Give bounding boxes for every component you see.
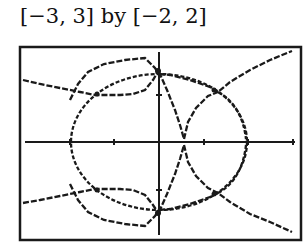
lower-cusp-return xyxy=(184,145,218,193)
upper-cusp-return xyxy=(184,92,218,139)
upper-cusp-curve xyxy=(159,72,184,139)
right-arc-lower xyxy=(218,145,246,193)
lower-cusp-curve xyxy=(159,145,184,212)
upper-right-curve xyxy=(159,51,292,92)
lower-left-curve xyxy=(23,189,160,214)
lower-right-curve xyxy=(159,193,292,232)
right-arc-upper xyxy=(218,92,246,139)
graph-plot xyxy=(0,0,307,248)
upper-left-curve xyxy=(23,70,160,95)
